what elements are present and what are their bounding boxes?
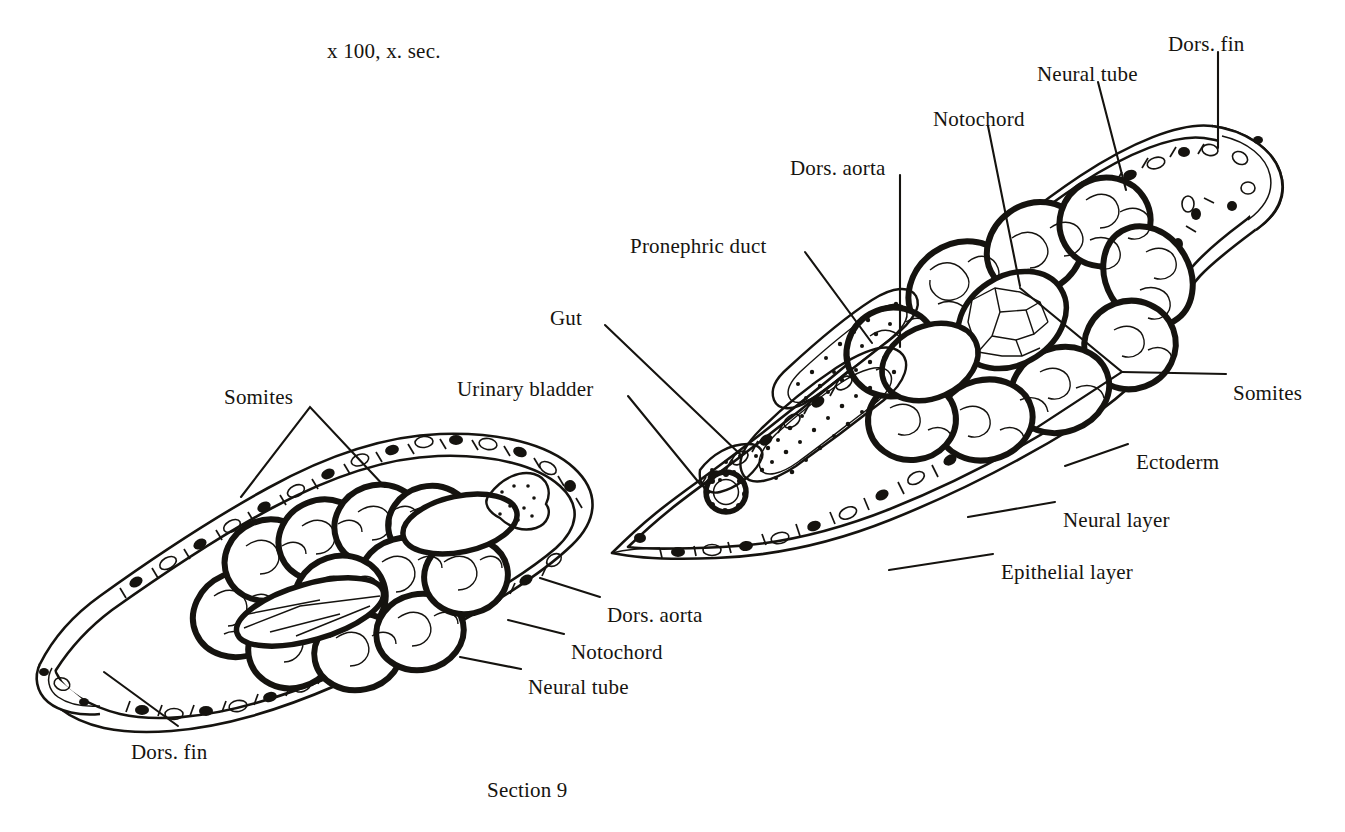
label-pronephric-duct: Pronephric duct xyxy=(630,235,767,258)
label-neural-layer: Neural layer xyxy=(1063,509,1170,532)
label-dors-aorta-bottom: Dors. aorta xyxy=(607,604,703,627)
label-dors-fin-bottom: Dors. fin xyxy=(131,741,207,764)
lower-section-group xyxy=(37,434,593,732)
leader-gut xyxy=(605,325,742,456)
label-somites-left: Somites xyxy=(224,386,293,409)
label-epithelial-layer: Epithelial layer xyxy=(1001,561,1133,584)
upper-section-group xyxy=(612,126,1283,559)
leader-dors-aorta-bottom xyxy=(540,578,600,597)
leader-ectoderm xyxy=(1065,444,1128,466)
label-notochord-bottom: Notochord xyxy=(571,641,663,664)
leader-neural-layer xyxy=(968,502,1055,517)
label-gut: Gut xyxy=(550,307,582,330)
magnification-note: x 100, x. sec. xyxy=(327,40,441,63)
label-dors-fin-top: Dors. fin xyxy=(1168,33,1244,56)
figure-caption: Section 9 xyxy=(487,779,568,802)
leader-urinary-bladder xyxy=(628,396,700,484)
leader-neural-tube-bottom xyxy=(460,657,521,669)
embryo-cross-section-drawing xyxy=(0,0,1345,832)
leader-notochord-bottom xyxy=(508,620,564,634)
figure-plate: x 100, x. sec. Dors. fin Neural tube Not… xyxy=(0,0,1345,832)
label-somites-right: Somites xyxy=(1233,382,1302,405)
label-ectoderm: Ectoderm xyxy=(1136,451,1219,474)
label-dors-aorta-top: Dors. aorta xyxy=(790,157,886,180)
label-notochord-top: Notochord xyxy=(933,108,1025,131)
leader-pronephric-duct xyxy=(805,252,872,343)
label-neural-tube-top: Neural tube xyxy=(1037,63,1138,86)
leader-epithelial-layer xyxy=(889,554,993,570)
label-urinary-bladder: Urinary bladder xyxy=(457,378,594,401)
label-neural-tube-bottom: Neural tube xyxy=(528,676,629,699)
